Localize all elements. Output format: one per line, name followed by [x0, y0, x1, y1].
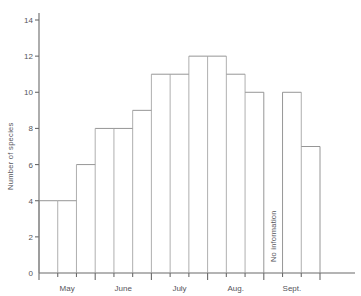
y-axis-title: Number of species	[6, 122, 15, 190]
bar-chart-figure: 02468101214Number of speciesMayJuneJulyA…	[0, 0, 361, 296]
y-tick-label: 6	[29, 161, 34, 170]
y-tick-label: 2	[29, 233, 34, 242]
y-tick-label: 14	[24, 16, 33, 25]
x-tick-label-may: May	[60, 284, 75, 293]
chart-canvas: 02468101214Number of speciesMayJuneJulyA…	[0, 0, 361, 296]
y-tick-label: 4	[29, 197, 34, 206]
no-information-annotation: No information	[269, 210, 278, 262]
y-tick-label: 8	[29, 124, 34, 133]
x-tick-label-aug: Aug.	[227, 284, 243, 293]
y-tick-label: 12	[24, 52, 33, 61]
x-tick-label-july: July	[172, 284, 186, 293]
y-tick-label: 0	[29, 269, 34, 278]
x-tick-label-sept: Sept.	[283, 284, 302, 293]
y-tick-label: 10	[24, 88, 33, 97]
x-tick-label-june: June	[115, 284, 133, 293]
